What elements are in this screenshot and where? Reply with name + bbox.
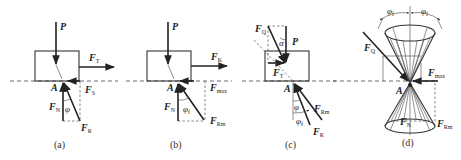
label-FK: FK <box>210 51 223 63</box>
phi-arc <box>293 100 300 101</box>
phi-f-left-arc <box>380 13 409 20</box>
label-P: P <box>172 21 179 32</box>
label-FR: FR <box>312 126 324 138</box>
point-A <box>408 83 412 87</box>
label-FRm: FRm <box>209 115 226 127</box>
label-FRm: FRm <box>436 118 453 130</box>
panel-a: P FT FS FN FR φ A (a) <box>10 21 118 151</box>
block <box>147 51 191 81</box>
label-phi: φ <box>65 104 70 114</box>
label-FT: FT <box>88 52 100 64</box>
label-phi-f-left: φf <box>387 6 394 17</box>
panel-b: P FK Fmax FN FRm φf A (b) <box>126 21 232 151</box>
label-phi-f: φf <box>183 104 190 115</box>
block <box>265 51 309 81</box>
label-phi-f: φf <box>296 116 303 127</box>
label-A: A <box>395 85 403 96</box>
label-phi-f-right: φf <box>421 6 428 17</box>
force-FRm-arrow <box>179 84 204 120</box>
label-A: A <box>50 82 58 93</box>
angle-arc <box>178 98 189 100</box>
slant-mark <box>56 65 62 79</box>
label-A: A <box>283 83 291 94</box>
friction-diagram: P FT FS FN FR φ A (a) P FK Fmax <box>0 0 461 160</box>
label-alpha: α <box>279 38 284 48</box>
force-FR-arrow <box>64 83 80 121</box>
block <box>35 51 79 81</box>
label-A: A <box>166 82 174 93</box>
label-Fmax: Fmax <box>209 82 227 94</box>
angle-arc <box>63 99 70 101</box>
label-FT: FT <box>272 67 284 79</box>
label-phi: φ <box>294 102 299 112</box>
panel-d: φf φf FQ Fmax A FN FRm (d) <box>333 6 453 149</box>
label-P: P <box>60 21 67 32</box>
label-FQ: FQ <box>254 23 267 35</box>
caption-d: (d) <box>402 137 414 149</box>
panel-c: P FQ FT α FR FRm φ φf A (c) <box>242 23 336 151</box>
force-FRm-arrow <box>295 84 322 120</box>
label-FN: FN <box>163 101 176 113</box>
caption-b: (b) <box>170 139 182 151</box>
label-P: P <box>292 36 299 47</box>
label-FN: FN <box>48 101 61 113</box>
slant-mark <box>168 65 174 79</box>
caption-c: (c) <box>285 139 296 151</box>
caption-a: (a) <box>54 139 65 151</box>
label-FR: FR <box>80 122 92 134</box>
label-Fmax: Fmax <box>427 67 445 79</box>
label-FRm: FRm <box>313 103 330 115</box>
label-FS: FS <box>84 84 95 96</box>
